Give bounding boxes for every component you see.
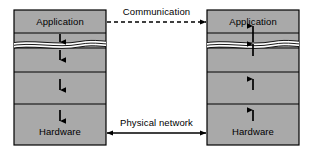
left-application-label: Application bbox=[14, 16, 106, 27]
left-protocol-stack bbox=[8, 10, 114, 145]
left-hardware-label: Hardware bbox=[14, 126, 106, 137]
right-hardware-label: Hardware bbox=[207, 126, 299, 137]
protocol-stack-diagram: Application Hardware Application Hardwar… bbox=[0, 0, 313, 160]
physical-network-label: Physical network bbox=[103, 117, 210, 128]
right-protocol-stack bbox=[201, 10, 307, 145]
right-application-label: Application bbox=[207, 16, 299, 27]
left-stack-body bbox=[14, 10, 106, 145]
communication-label: Communication bbox=[105, 6, 208, 17]
